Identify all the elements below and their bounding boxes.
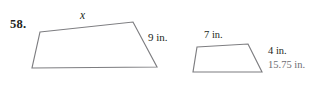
problem-number: 58. bbox=[10, 18, 26, 31]
small-trapezoid-shape bbox=[193, 44, 262, 72]
small-trapezoid-right-label: 4 in. bbox=[268, 46, 287, 57]
large-trapezoid-right-label: 9 in. bbox=[148, 32, 168, 43]
large-trapezoid-shape bbox=[32, 22, 157, 68]
answer-value: 15.75 in. bbox=[268, 60, 305, 71]
large-trapezoid-top-label: x bbox=[80, 10, 85, 22]
small-trapezoid-top-label: 7 in. bbox=[204, 30, 223, 41]
geometry-problem-figure: 58. x 9 in. 7 in. 4 in. 15.75 in. bbox=[0, 0, 326, 95]
